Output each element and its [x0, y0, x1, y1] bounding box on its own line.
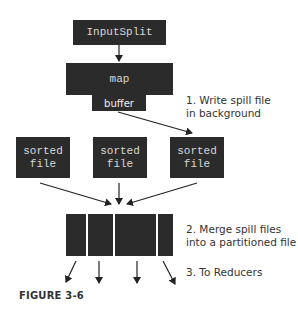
input-split-box: InputSplit — [73, 20, 166, 45]
sorted-file-label-line1: sorted — [177, 145, 217, 158]
step2-line1: 2. Merge spill files — [186, 223, 296, 236]
step1-note: 1. Write spill file in background — [186, 94, 271, 120]
map-label: map — [110, 73, 130, 86]
arrow-buffer-to-spill — [118, 112, 192, 133]
figure-caption: FIGURE 3-6 — [19, 290, 84, 301]
arrow-sorted1-to-merge — [40, 183, 111, 204]
map-box: map — [66, 63, 173, 95]
partition-segment-4 — [158, 214, 173, 256]
sorted-file-label-line2: file — [30, 158, 56, 171]
partition-segment-2 — [88, 214, 113, 256]
input-split-label: InputSplit — [86, 26, 152, 39]
arrow-to-reducer-4 — [163, 261, 175, 284]
step3-note: 3. To Reducers — [186, 266, 262, 279]
buffer-box: buffer — [92, 95, 146, 111]
step1-line1: 1. Write spill file — [186, 94, 271, 107]
step3-label: 3. To Reducers — [186, 266, 262, 278]
sorted-file-label-line2: file — [107, 158, 133, 171]
arrow-to-reducer-1 — [66, 261, 76, 282]
sorted-file-label-line2: file — [184, 158, 210, 171]
arrow-sorted3-to-merge — [127, 183, 197, 204]
buffer-label: buffer — [104, 98, 134, 109]
sorted-file-label-line1: sorted — [23, 145, 63, 158]
step1-line2: in background — [186, 107, 271, 120]
sorted-file-box-1: sorted file — [16, 137, 70, 178]
step2-note: 2. Merge spill files into a partitioned … — [186, 223, 296, 249]
partition-segment-1 — [66, 214, 86, 256]
sorted-file-box-3: sorted file — [170, 137, 224, 178]
sorted-file-box-2: sorted file — [93, 137, 147, 178]
sorted-file-label-line1: sorted — [100, 145, 140, 158]
partition-segment-3 — [115, 214, 156, 256]
figure-caption-label: FIGURE 3-6 — [19, 290, 84, 301]
step2-line2: into a partitioned file — [186, 236, 296, 249]
